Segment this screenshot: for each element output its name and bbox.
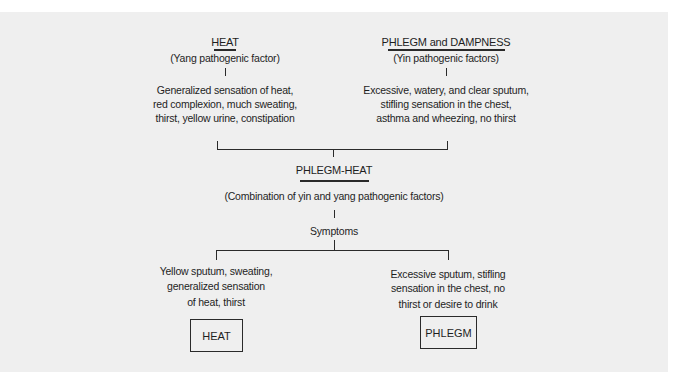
phlegm-heat-title-underline — [300, 180, 369, 182]
phlegm-dampness-title: PHLEGM and DAMPNESS — [382, 35, 511, 49]
heat-symptom-line-2: red complexion, much sweating, — [153, 97, 297, 111]
heat-subtitle: (Yang pathogenic factor) — [170, 51, 279, 65]
bottom-bracket-left-arm — [216, 250, 217, 260]
heat-connector — [225, 68, 226, 76]
outcome-phlegm-box-label: PHLEGM — [425, 327, 471, 339]
phlegm-dampness-subtitle: (Yin pathogenic factors) — [393, 51, 499, 65]
outcome-heat-symptom-line-2: generalized sensation — [167, 279, 265, 293]
heat-symptom-line-3: thirst, yellow urine, constipation — [155, 111, 294, 125]
heat-title: HEAT — [211, 35, 239, 49]
outcome-phlegm-symptom-line-1: Excessive sputum, stifling — [390, 267, 505, 281]
outcome-heat-box: HEAT — [190, 319, 243, 352]
outcome-phlegm-box: PHLEGM — [420, 316, 477, 349]
phlegm-heat-title: PHLEGM-HEAT — [296, 163, 372, 177]
phlegm-heat-connector — [334, 210, 335, 218]
symptoms-label: Symptoms — [310, 224, 358, 238]
heat-symptom-line-1: Generalized sensation of heat, — [157, 83, 293, 97]
outcome-heat-symptom-line-3: of heat, thirst — [187, 295, 245, 309]
outcome-heat-symptom-line-1: Yellow sputum, sweating, — [160, 264, 273, 278]
bottom-bracket-stem — [334, 240, 335, 250]
top-bracket-stem — [333, 149, 334, 157]
phlegm-dampness-symptom-line-1: Excessive, watery, and clear sputum, — [363, 83, 528, 97]
outcome-phlegm-symptom-line-3: thirst or desire to drink — [399, 297, 498, 311]
phlegm-dampness-symptom-line-3: asthma and wheezing, no thirst — [376, 111, 515, 125]
phlegm-dampness-symptom-line-2: stifling sensation in the chest, — [381, 97, 512, 111]
bottom-bracket-right-arm — [448, 250, 449, 260]
phlegm-heat-subtitle: (Combination of yin and yang pathogenic … — [224, 189, 443, 203]
outcome-phlegm-symptom-line-2: sensation in the chest, no — [391, 281, 505, 295]
outcome-heat-box-label: HEAT — [202, 330, 231, 342]
bottom-bracket-bar — [216, 250, 449, 251]
phlegm-dampness-connector — [446, 68, 447, 76]
